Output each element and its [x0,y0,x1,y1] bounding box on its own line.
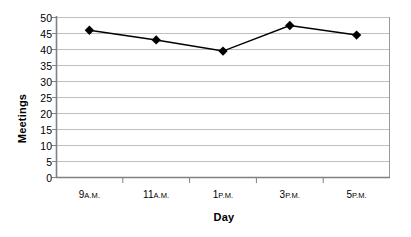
x-axis-tick-labels: 9A.M. 11A.M. 1P.M. 3P.M. 5P.M. [0,190,411,206]
x-tick-hour: 11 [143,189,153,200]
x-tick-meridiem: P.M. [218,191,233,200]
data-point-marker [218,46,227,55]
data-series-meetings [85,21,362,56]
x-tick-label: 1P.M. [193,190,253,200]
x-axis-line [56,178,390,184]
data-point-marker [352,30,361,39]
data-point-marker [285,21,294,30]
x-tick-label: 11A.M. [126,190,186,200]
x-tick-meridiem: A.M. [153,191,169,200]
x-tick-label: 5P.M. [327,190,387,200]
x-tick-meridiem: P.M. [285,191,300,200]
x-tick-meridiem: A.M. [84,191,100,200]
x-tick-meridiem: P.M. [352,191,367,200]
x-tick-label: 3P.M. [260,190,320,200]
y-axis-line [52,16,57,178]
gridlines [56,18,390,162]
line-chart: Meetings 50 45 40 35 30 25 20 15 10 5 0 [0,0,411,237]
data-point-marker [152,35,161,44]
x-axis-title: Day [58,211,390,223]
x-tick-label: 9A.M. [59,190,119,200]
